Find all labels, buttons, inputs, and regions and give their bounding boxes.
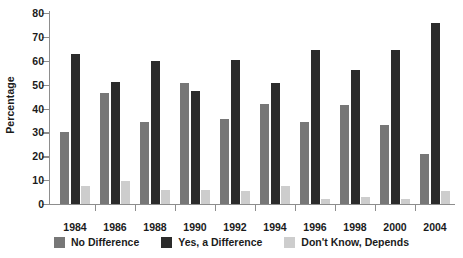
bar-group — [300, 13, 330, 204]
bar — [380, 125, 389, 204]
bar — [60, 132, 69, 204]
bar — [391, 50, 400, 204]
y-axis-tick-label: 20 — [32, 150, 44, 162]
x-axis-tick-label: 1994 — [263, 221, 286, 233]
bar — [151, 61, 160, 204]
legend-item[interactable]: Yes, a Difference — [161, 236, 262, 248]
x-axis-tick-label: 1990 — [183, 221, 206, 233]
legend-item-label: No Difference — [71, 236, 139, 248]
bar — [441, 191, 450, 204]
legend-item[interactable]: Don't Know, Depends — [284, 236, 409, 248]
bar — [321, 199, 330, 204]
y-axis-tick-label: 30 — [32, 126, 44, 138]
x-axis-tick-label: 2004 — [423, 221, 446, 233]
bar — [100, 93, 109, 204]
x-axis-separator — [215, 204, 216, 211]
x-axis-separator — [335, 204, 336, 211]
y-axis-tick-label: 60 — [32, 55, 44, 67]
bar-group — [140, 13, 170, 204]
bar — [401, 199, 410, 204]
y-axis-tick-label: 70 — [32, 31, 44, 43]
y-axis-line — [49, 11, 50, 204]
bar — [271, 83, 280, 204]
y-axis-tick-label: 0 — [38, 198, 44, 210]
bar — [81, 186, 90, 204]
x-axis-separator — [295, 204, 296, 211]
bar-chart: Percentage 01020304050607080 19841986198… — [0, 0, 463, 258]
bar — [311, 50, 320, 204]
bar — [201, 190, 210, 204]
bar — [111, 82, 120, 204]
x-axis-separator — [135, 204, 136, 211]
legend-swatch-icon — [284, 237, 295, 248]
bar — [340, 105, 349, 204]
bar — [231, 60, 240, 204]
bar — [121, 181, 130, 204]
bar — [191, 91, 200, 204]
bar — [281, 186, 290, 204]
bar-group — [100, 13, 130, 204]
plot-area: 01020304050607080 1984198619881990199219… — [55, 13, 455, 204]
legend-item-label: Yes, a Difference — [178, 236, 262, 248]
y-axis-title-label: Percentage — [4, 76, 16, 134]
bar — [161, 190, 170, 204]
x-axis-separator — [95, 204, 96, 211]
y-axis-tick-label: 50 — [32, 79, 44, 91]
y-axis-tick-label: 40 — [32, 103, 44, 115]
x-axis-tick-label: 1998 — [343, 221, 366, 233]
bar-group — [260, 13, 290, 204]
bar-group — [380, 13, 410, 204]
bar-group — [220, 13, 250, 204]
bar-group — [60, 13, 90, 204]
legend-swatch-icon — [161, 237, 172, 248]
bar — [420, 154, 429, 204]
bar — [180, 83, 189, 204]
y-axis-title: Percentage — [0, 0, 20, 210]
bar-group — [340, 13, 370, 204]
legend-item[interactable]: No Difference — [54, 236, 139, 248]
bar — [241, 191, 250, 204]
y-axis-tick-label: 10 — [32, 174, 44, 186]
bar — [140, 122, 149, 204]
x-axis-separator — [255, 204, 256, 211]
bar — [220, 119, 229, 204]
x-axis-separator — [415, 204, 416, 211]
bar — [351, 70, 360, 204]
chart-legend: No DifferenceYes, a DifferenceDon't Know… — [0, 233, 463, 251]
bar-group — [420, 13, 450, 204]
x-axis-tick-label: 2000 — [383, 221, 406, 233]
bar — [300, 122, 309, 204]
x-axis-tick-label: 1992 — [223, 221, 246, 233]
x-axis-tick-label: 1984 — [63, 221, 86, 233]
bar — [361, 197, 370, 204]
x-axis-line — [49, 204, 455, 205]
bar — [431, 23, 440, 204]
bar-group — [180, 13, 210, 204]
y-axis-tick-label: 80 — [32, 7, 44, 19]
x-axis-tick-label: 1988 — [143, 221, 166, 233]
bar — [71, 54, 80, 204]
x-axis-tick-label: 1996 — [303, 221, 326, 233]
legend-swatch-icon — [54, 237, 65, 248]
x-axis-separator — [375, 204, 376, 211]
legend-item-label: Don't Know, Depends — [301, 236, 409, 248]
bar — [260, 104, 269, 204]
x-axis-tick-label: 1986 — [103, 221, 126, 233]
x-axis-separator — [175, 204, 176, 211]
